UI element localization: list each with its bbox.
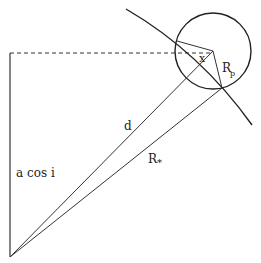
label-r-star-sub: * bbox=[157, 157, 162, 168]
transit-diagram: a cos i d R * x R p bbox=[0, 0, 261, 263]
d-line bbox=[10, 51, 213, 257]
label-r-p-sub: p bbox=[230, 69, 235, 78]
label-a-cos-i: a cos i bbox=[16, 166, 55, 180]
label-x: x bbox=[199, 52, 206, 65]
stellar-limb-arc bbox=[126, 9, 252, 125]
label-d: d bbox=[124, 119, 132, 133]
